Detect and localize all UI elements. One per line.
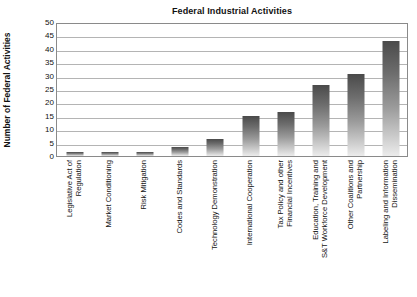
x-axis-label-slot: Technology Demonstration [197, 160, 232, 295]
bar[interactable] [348, 74, 365, 156]
x-axis-tick-label: Other Coalitions andPartnership [346, 160, 364, 229]
x-axis-tick-label: International Cooperation [245, 160, 254, 245]
x-axis-tick-label-line: Partnership [355, 160, 364, 229]
plot-area [56, 23, 408, 157]
bar-slot [92, 24, 127, 156]
bar-slot [268, 24, 303, 156]
x-axis-tick-labels: Legislative Act ofRegulationMarket Condi… [56, 160, 408, 295]
x-axis-tick-label: Education, Training andS&T Workforce Dev… [311, 160, 329, 258]
x-axis-tick-label-line: Codes and Standards [175, 160, 184, 233]
bar-slot [163, 24, 198, 156]
bar[interactable] [101, 152, 118, 156]
bar-slot [374, 24, 409, 156]
x-axis-tick-label: Tax Policy and otherFinancial Incentives [276, 160, 294, 228]
bar[interactable] [312, 85, 329, 156]
y-axis-tick-label: 20 [36, 99, 54, 107]
x-axis-label-slot: Legislative Act ofRegulation [56, 160, 91, 295]
y-axis-title: Number of Federal Activities [0, 23, 14, 157]
bar-slot [127, 24, 162, 156]
bar-slot [57, 24, 92, 156]
y-axis-tick-label: 0 [36, 153, 54, 161]
y-axis-tick-label: 40 [36, 46, 54, 54]
x-axis-label-slot: International Cooperation [232, 160, 267, 295]
y-axis-tick-labels: 50454035302520151050 [33, 23, 54, 157]
x-axis-tick-label-line: Dissemination [390, 160, 399, 244]
bar[interactable] [207, 139, 224, 156]
x-axis-label-slot: Market Conditioning [91, 160, 126, 295]
y-axis-tick-label: 35 [36, 59, 54, 67]
bar-series [57, 24, 407, 156]
bar[interactable] [66, 152, 83, 156]
x-axis-label-slot: Education, Training andS&T Workforce Dev… [302, 160, 337, 295]
y-axis-tick-label: 10 [36, 126, 54, 134]
x-axis-tick-label-line: Tax Policy and other [276, 160, 285, 228]
chart-figure: Federal Industrial Activities Number of … [0, 0, 417, 297]
x-axis-tick-label-line: International Cooperation [245, 160, 254, 245]
y-axis-tick-label: 5 [36, 140, 54, 148]
chart-title: Federal Industrial Activities [56, 6, 408, 16]
y-axis-tick-label: 25 [36, 86, 54, 94]
x-axis-tick-label: Technology Demonstration [210, 160, 219, 250]
x-axis-tick-label: Risk Mitigation [139, 160, 148, 209]
bar[interactable] [383, 41, 400, 156]
y-axis-tick-label: 45 [36, 32, 54, 40]
x-axis-tick-label-line: Risk Mitigation [139, 160, 148, 209]
x-axis-label-slot: Other Coalitions andPartnership [338, 160, 373, 295]
bar[interactable] [242, 116, 259, 156]
y-axis-tick-label: 50 [36, 19, 54, 27]
y-axis-tick-label: 15 [36, 113, 54, 121]
y-axis-tick-label: 30 [36, 73, 54, 81]
x-axis-tick-label: Codes and Standards [175, 160, 184, 233]
x-axis-tick-label-line: Financial Incentives [285, 160, 294, 228]
x-axis-tick-label-line: Other Coalitions and [346, 160, 355, 229]
bar[interactable] [136, 152, 153, 156]
bar[interactable] [277, 112, 294, 156]
bar-slot [303, 24, 338, 156]
bar[interactable] [172, 147, 189, 156]
x-axis-tick-label: Legislative Act ofRegulation [65, 160, 83, 217]
x-axis-tick-label-line: Legislative Act of [65, 160, 74, 217]
x-axis-tick-label-line: Education, Training and [311, 160, 320, 240]
x-axis-label-slot: Codes and Standards [162, 160, 197, 295]
x-axis-tick-label-line: S&T Workforce Development [320, 160, 329, 258]
x-axis-label-slot: Risk Mitigation [126, 160, 161, 295]
y-axis-title-text: Number of Federal Activities [2, 33, 12, 148]
x-axis-tick-label-line: Technology Demonstration [210, 160, 219, 250]
x-axis-label-slot: Tax Policy and otherFinancial Incentives [267, 160, 302, 295]
bar-slot [233, 24, 268, 156]
x-axis-tick-label-line: Market Conditioning [104, 160, 113, 228]
bar-slot [339, 24, 374, 156]
bar-slot [198, 24, 233, 156]
x-axis-label-slot: Labeling and InformationDissemination [373, 160, 408, 295]
x-axis-tick-label: Labeling and InformationDissemination [381, 160, 399, 244]
x-axis-tick-label-line: Regulation [74, 160, 83, 217]
x-axis-tick-label: Market Conditioning [104, 160, 113, 228]
